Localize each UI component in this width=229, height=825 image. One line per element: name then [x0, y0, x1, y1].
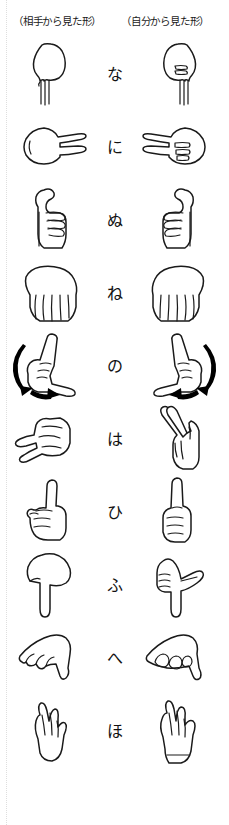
kana-label: ぬ — [99, 182, 130, 255]
hand-illustration-self-view — [131, 36, 223, 109]
motion-arrow-icon — [203, 344, 216, 391]
chart-row: ね — [0, 255, 229, 328]
hand-illustration-partner-view — [6, 36, 98, 109]
hand-illustration-self-view — [131, 547, 223, 620]
hand-illustration-self-view — [131, 474, 223, 547]
chart-row: は — [0, 401, 229, 474]
chart-row: の — [0, 328, 229, 401]
motion-arrow-icon — [13, 344, 26, 391]
kana-label: ね — [99, 255, 130, 328]
hand-illustration-partner-view — [6, 401, 98, 474]
hand-illustration-partner-view — [6, 620, 98, 693]
kana-label: へ — [99, 620, 130, 693]
fingerspelling-chart: （相手から見た形） （自分から見た形） な — [0, 0, 229, 825]
hand-illustration-self-view — [131, 255, 223, 328]
hand-illustration-partner-view — [6, 693, 98, 766]
hand-illustration-self-view — [131, 328, 223, 401]
kana-label: は — [99, 401, 130, 474]
chart-header: （相手から見た形） （自分から見た形） — [0, 10, 229, 32]
chart-row: ふ — [0, 547, 229, 620]
chart-row: な — [0, 36, 229, 109]
kana-label: ほ — [99, 693, 130, 766]
hand-illustration-self-view — [131, 620, 223, 693]
kana-label: な — [99, 36, 130, 109]
chart-row: ほ — [0, 693, 229, 766]
column-header-self-view: （自分から見た形） — [121, 10, 209, 32]
hand-illustration-partner-view — [6, 547, 98, 620]
hand-illustration-self-view — [131, 182, 223, 255]
hand-illustration-self-view — [131, 109, 223, 182]
hand-illustration-partner-view — [6, 109, 98, 182]
hand-illustration-self-view — [131, 693, 223, 766]
hand-illustration-partner-view — [6, 474, 98, 547]
kana-label: に — [99, 109, 130, 182]
kana-label: ひ — [99, 474, 130, 547]
kana-label: の — [99, 328, 130, 401]
kana-label: ふ — [99, 547, 130, 620]
chart-row: に — [0, 109, 229, 182]
chart-row: ひ — [0, 474, 229, 547]
hand-illustration-partner-view — [6, 328, 98, 401]
hand-illustration-partner-view — [6, 255, 98, 328]
hand-illustration-partner-view — [6, 182, 98, 255]
hand-illustration-self-view — [131, 401, 223, 474]
chart-row: へ — [0, 620, 229, 693]
column-header-partner-view: （相手から見た形） — [13, 10, 101, 32]
chart-row: ぬ — [0, 182, 229, 255]
